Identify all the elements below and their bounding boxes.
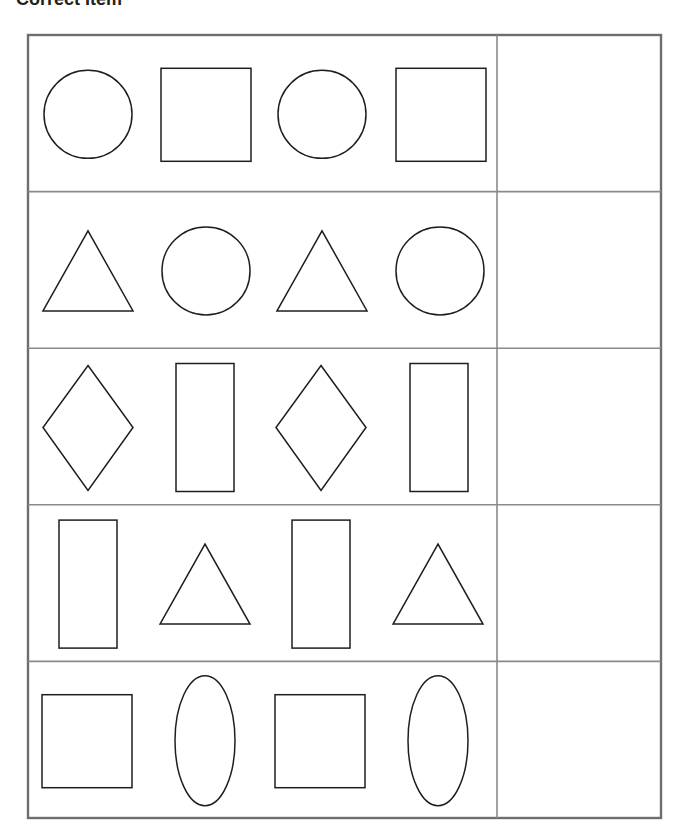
tall-rectangle-shape — [59, 520, 117, 648]
tall-rectangle-shape — [292, 520, 350, 648]
answer-cell[interactable] — [499, 507, 659, 660]
answer-cell[interactable] — [499, 663, 659, 816]
diamond-shape — [43, 366, 133, 491]
pattern-shapes — [42, 68, 486, 805]
square-shape — [275, 695, 365, 788]
pattern-row — [43, 227, 484, 315]
square-shape — [396, 68, 486, 161]
triangle-shape — [43, 231, 133, 311]
square-shape — [42, 695, 132, 788]
pattern-row — [59, 520, 483, 648]
pattern-row — [42, 676, 468, 806]
pattern-row — [43, 364, 468, 492]
oval-shape — [408, 676, 468, 806]
answer-cell[interactable] — [499, 37, 659, 190]
circle-shape — [44, 70, 132, 158]
circle-shape — [278, 70, 366, 158]
answer-cells — [499, 37, 659, 816]
pattern-worksheet — [0, 0, 682, 836]
answer-cell[interactable] — [499, 350, 659, 503]
triangle-shape — [277, 231, 367, 311]
pattern-row — [44, 68, 486, 161]
diamond-shape — [276, 366, 366, 491]
circle-shape — [162, 227, 250, 315]
triangle-shape — [160, 544, 250, 624]
answer-cell[interactable] — [499, 194, 659, 347]
oval-shape — [175, 676, 235, 806]
tall-rectangle-shape — [410, 364, 468, 492]
tall-rectangle-shape — [176, 364, 234, 492]
square-shape — [161, 68, 251, 161]
circle-shape — [396, 227, 484, 315]
triangle-shape — [393, 544, 483, 624]
